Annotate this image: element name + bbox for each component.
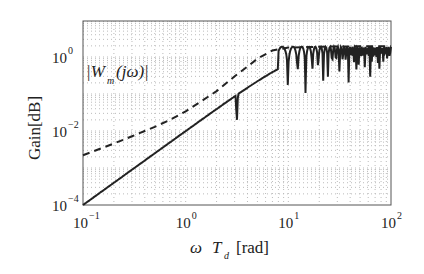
svg-text:10: 10	[73, 215, 88, 231]
svg-text:T: T	[212, 238, 223, 257]
svg-text:[rad]: [rad]	[236, 238, 269, 257]
svg-text:10: 10	[52, 124, 67, 140]
svg-text:2: 2	[397, 210, 402, 221]
svg-text:0: 0	[192, 210, 197, 221]
svg-text:Gain[dB]: Gain[dB]	[25, 96, 44, 160]
svg-text:−1: −1	[89, 210, 100, 221]
x-axis-label: ω T d [rad]	[190, 238, 269, 261]
y-axis-label: Gain[dB]	[25, 96, 44, 160]
svg-text:|W: |W	[86, 62, 107, 81]
svg-text:(jω)|: (jω)|	[116, 62, 149, 81]
svg-text:10: 10	[52, 50, 67, 66]
svg-text:−4: −4	[68, 193, 79, 204]
svg-text:d: d	[224, 250, 230, 261]
svg-text:ω: ω	[190, 238, 202, 257]
gain-chart: 10−110010110210−410−2100 |W m (jω)| Gain…	[0, 0, 424, 274]
svg-text:−2: −2	[68, 119, 79, 130]
svg-text:10: 10	[52, 198, 67, 214]
svg-text:m: m	[107, 75, 114, 86]
svg-text:0: 0	[68, 45, 73, 56]
svg-text:10: 10	[176, 215, 191, 231]
svg-text:10: 10	[278, 215, 293, 231]
svg-text:1: 1	[294, 210, 299, 221]
svg-text:10: 10	[381, 215, 396, 231]
